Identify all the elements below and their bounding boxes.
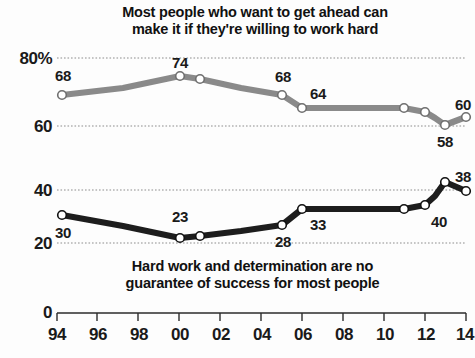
- series-a-point: [441, 121, 450, 130]
- series-a-point: [298, 104, 307, 113]
- series-a-point: [196, 75, 205, 84]
- series-a-data-label-2013: 58: [428, 133, 462, 150]
- x-axis-label-10: 10: [368, 325, 402, 345]
- series-b-data-label-2006: 33: [301, 216, 335, 233]
- x-axis-label-00: 00: [163, 325, 197, 345]
- x-axis-label-12: 12: [409, 325, 443, 345]
- series-b-data-label-1994: 30: [46, 224, 80, 241]
- series-a-point: [400, 104, 409, 113]
- series-b-point: [400, 205, 409, 214]
- x-axis-label-02: 02: [204, 325, 238, 345]
- series-a-line: [62, 76, 466, 125]
- x-axis-label-98: 98: [122, 325, 156, 345]
- series-b-point: [176, 234, 185, 243]
- series-a-point: [278, 91, 287, 100]
- series-a-data-label-2000: 74: [163, 54, 197, 71]
- series-a-data-label-2006: 64: [301, 85, 335, 102]
- x-axis-label-08: 08: [327, 325, 361, 345]
- series-b-title-line1: Hard work and determination are no: [55, 258, 450, 275]
- series-b-data-label-2012: 40: [422, 213, 456, 230]
- y-axis-label-60: 60: [4, 117, 52, 137]
- series-b-point: [196, 232, 205, 241]
- y-axis-label-40: 40: [4, 181, 52, 201]
- series-b-point: [462, 187, 471, 196]
- series-a-point: [421, 108, 430, 117]
- chart-container: Most people who want to get ahead can ma…: [0, 0, 475, 358]
- x-axis-label-06: 06: [286, 325, 320, 345]
- y-axis-label-80: 80%: [4, 49, 52, 69]
- x-axis-label-94: 94: [40, 325, 74, 345]
- x-axis-label-96: 96: [81, 325, 115, 345]
- series-b-point: [298, 205, 307, 214]
- series-a-point: [176, 72, 185, 81]
- series-a-point: [462, 113, 471, 122]
- series-a-markers: [58, 72, 471, 130]
- plot-area: [0, 0, 475, 358]
- y-axis-label-0: 0: [4, 303, 52, 323]
- series-a-point: [58, 91, 67, 100]
- x-axis-label-14: 14: [448, 325, 475, 345]
- series-b-data-label-2014: 38: [446, 168, 475, 185]
- x-axis-label-04: 04: [245, 325, 279, 345]
- series-a-polyline: [62, 76, 466, 125]
- series-b-title: Hard work and determination are no guara…: [55, 258, 450, 292]
- series-b-markers: [58, 178, 471, 243]
- series-b-title-line2: guarantee of success for most people: [55, 275, 450, 292]
- y-axis-label-20: 20: [4, 234, 52, 254]
- x-axis: [57, 313, 466, 321]
- series-b-data-label-2000: 23: [163, 208, 197, 225]
- series-b-point: [421, 201, 430, 210]
- series-a-data-label-1994: 68: [46, 67, 80, 84]
- series-a-data-label-2005: 68: [266, 68, 300, 85]
- series-b-point: [278, 221, 287, 230]
- series-b-data-label-2005: 28: [266, 233, 300, 250]
- series-a-data-label-2014: 60: [446, 96, 475, 113]
- series-b-point: [58, 211, 67, 220]
